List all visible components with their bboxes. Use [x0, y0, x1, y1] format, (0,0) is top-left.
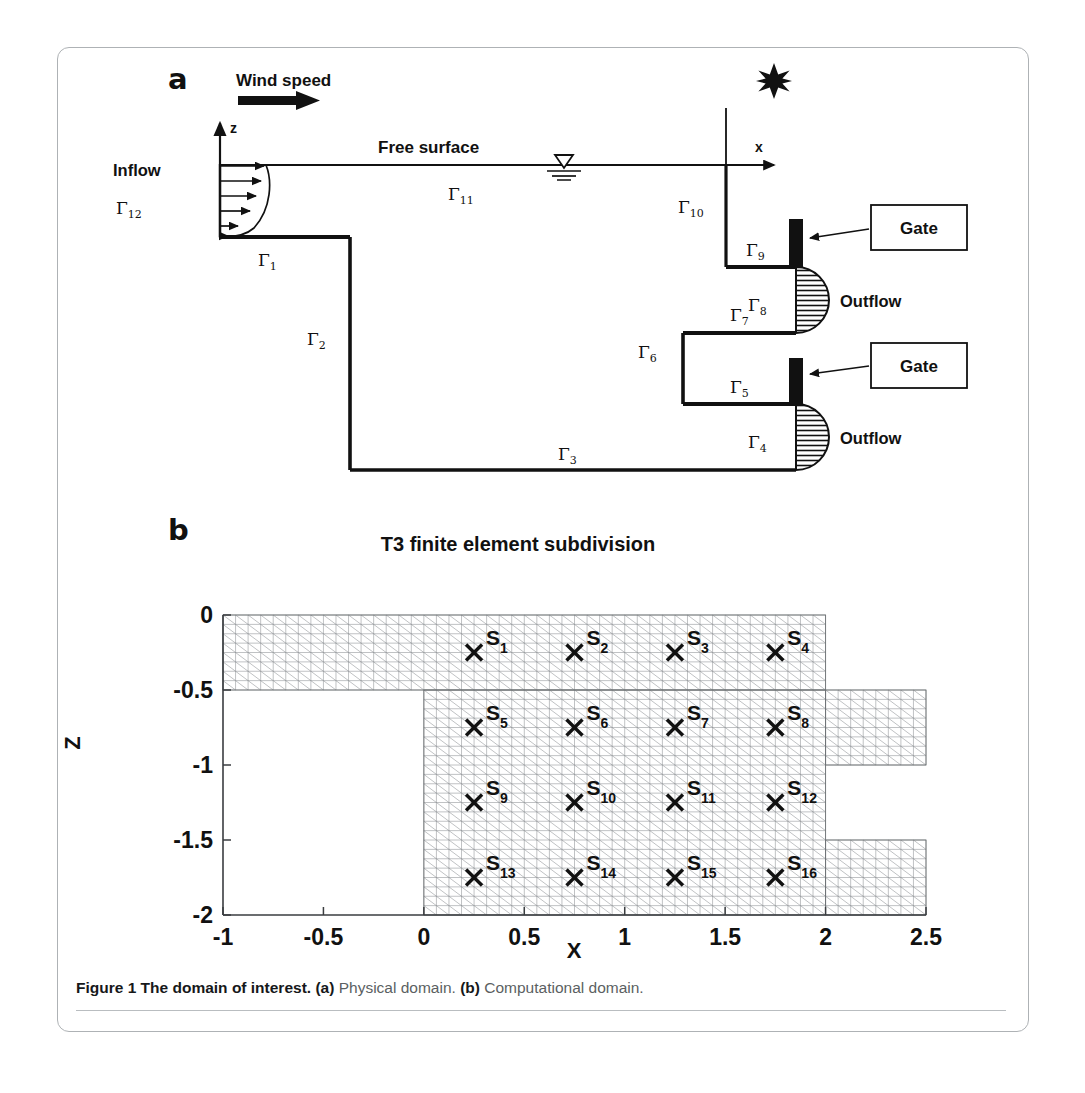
z-axis-label: z: [230, 120, 237, 136]
x-tick-label: -1: [213, 924, 234, 950]
sample-point-label: S11: [687, 776, 716, 806]
x-tick-label: 1.5: [709, 924, 741, 950]
boundary-label-gamma-10: Γ10: [678, 197, 704, 220]
boundary-label-gamma-2: Γ2: [307, 329, 326, 352]
y-tick-label: -1.5: [173, 827, 213, 853]
mesh-title: T3 finite element subdivision: [381, 533, 656, 555]
boundary-gamma-8-outflow: [796, 267, 829, 333]
boundary-label-gamma-5: Γ5: [730, 377, 749, 400]
x-axis-title: X: [567, 938, 582, 963]
boundary-label-gamma-9: Γ9: [746, 240, 765, 263]
mesh-region-lower-outlet: [826, 840, 926, 915]
caption-lead: Figure 1 The domain of interest.: [76, 979, 311, 996]
sample-point-label: S15: [687, 851, 717, 881]
boundary-label-gamma-11: Γ11: [448, 184, 474, 207]
gate-label-top: Gate: [900, 219, 938, 238]
mesh-region-main-basin: [424, 690, 826, 915]
y-tick-label: -2: [193, 902, 213, 928]
y-tick-label: -1: [193, 752, 214, 778]
panel-b-computational-domain: T3 finite element subdivision 0-0.5-1-1.…: [58, 503, 1030, 983]
x-tick-label: 0: [417, 924, 430, 950]
boundary-label-gamma-4: Γ4: [748, 432, 767, 455]
boundary-label-gamma-3: Γ3: [558, 444, 577, 467]
mesh-region-upper-outlet: [826, 690, 926, 765]
x-tick-label: -0.5: [304, 924, 344, 950]
mesh-group: [223, 615, 926, 915]
boundary-label-gamma-12: Γ12: [116, 198, 142, 221]
axes-group: 0-0.5-1-1.5-2-1-0.500.511.522.5: [173, 602, 942, 950]
sample-point-label: S13: [486, 851, 516, 881]
wind-speed-label: Wind speed: [236, 71, 331, 90]
gate-label-bottom: Gate: [900, 357, 938, 376]
x-tick-label: 1: [618, 924, 631, 950]
gate-callout-arrow-top: [810, 229, 869, 238]
outflow-label-top: Outflow: [840, 292, 902, 310]
boundary-gamma-4-outflow: [796, 404, 829, 470]
outflow-label-bottom: Outflow: [840, 429, 902, 447]
boundary-label-gamma-1: Γ1: [258, 250, 277, 273]
caption-text-a: Physical domain.: [334, 979, 460, 996]
x-tick-label: 0.5: [508, 924, 540, 950]
free-surface-label: Free surface: [378, 138, 479, 157]
inflow-velocity-arrows: [220, 166, 264, 236]
y-tick-label: -0.5: [173, 677, 213, 703]
wind-speed-arrow-icon: [238, 91, 320, 110]
caption-text-b: Computational domain.: [480, 979, 644, 996]
caption-tag-a: (a): [315, 979, 334, 996]
panel-a-physical-domain: Wind speed z Inflow Γ12 Free surface: [58, 48, 1030, 508]
figure-caption: Figure 1 The domain of interest. (a) Phy…: [76, 978, 1006, 999]
boundary-label-gamma-8: Γ8: [748, 295, 767, 318]
y-axis-title: Z: [60, 736, 85, 749]
x-tick-label: 2.5: [910, 924, 942, 950]
sample-point-label: S10: [587, 776, 617, 806]
sample-point-label: S16: [787, 851, 817, 881]
inflow-label: Inflow: [113, 161, 161, 179]
x-axis-label: x: [755, 139, 763, 155]
sun-star-icon: [756, 63, 792, 99]
water-level-triangle-icon: [547, 155, 581, 180]
x-tick-label: 2: [819, 924, 832, 950]
mesh-region-upper-channel: [223, 615, 826, 690]
caption-tag-b: (b): [460, 979, 480, 996]
gate-block-bottom: [789, 358, 803, 405]
sample-point-label: S14: [587, 851, 617, 881]
figure-card: a Wind speed z Inflow Γ12: [57, 47, 1029, 1032]
boundary-label-gamma-7: Γ7: [730, 305, 749, 328]
y-tick-label: 0: [200, 602, 213, 628]
sample-point-label: S12: [787, 776, 817, 806]
boundary-label-gamma-6: Γ6: [638, 342, 657, 365]
gate-block-top: [789, 219, 803, 268]
gate-callout-arrow-bottom: [810, 366, 869, 374]
caption-divider: [76, 1010, 1006, 1011]
